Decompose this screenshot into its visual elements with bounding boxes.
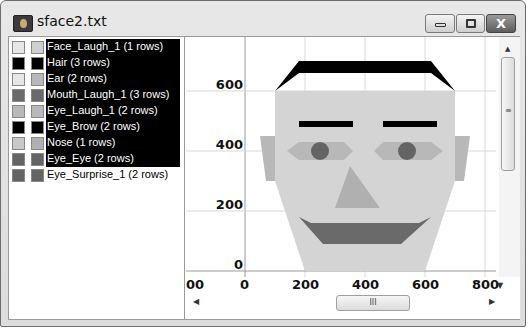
fill-color-swatch[interactable]: [12, 89, 25, 102]
horizontal-scroll-thumb[interactable]: III: [336, 295, 410, 311]
layer-item[interactable]: Ear (2 rows): [9, 71, 185, 87]
layer-label-bg: Face_Laugh_1 (1 rows): [46, 39, 180, 55]
y-tick-label: 600: [216, 77, 243, 92]
layer-label-bg: Eye_Brow (2 rows): [46, 119, 180, 135]
x-tick-label: 600: [412, 277, 439, 292]
fill-color-swatch[interactable]: [12, 73, 25, 86]
fill-color-swatch[interactable]: [12, 105, 25, 118]
close-icon: X: [487, 15, 515, 32]
maximize-icon: [466, 19, 476, 28]
eye-brow-shape: [299, 121, 353, 127]
y-tick-label: 200: [216, 197, 243, 212]
layer-label: Eye_Eye (2 rows): [47, 152, 134, 164]
x-tick-label: 00: [186, 277, 204, 292]
layer-item[interactable]: Eye_Surprise_1 (2 rows): [9, 167, 185, 183]
fill-color-swatch[interactable]: [12, 57, 25, 70]
x-tick-label: 800: [472, 277, 499, 292]
x-tick-label: 0: [240, 277, 249, 292]
layer-label: Nose (1 rows): [47, 136, 115, 148]
layer-label-bg: Eye_Eye (2 rows): [46, 151, 180, 167]
title-bar[interactable]: sface2.txt X: [1, 1, 525, 35]
line-color-swatch[interactable]: [31, 105, 44, 118]
line-color-swatch[interactable]: [31, 121, 44, 134]
layer-item[interactable]: Nose (1 rows): [9, 135, 185, 151]
y-tick-label: 400: [216, 137, 243, 152]
layer-label: Eye_Brow (2 rows): [47, 120, 140, 132]
grip-icon: ≡: [505, 106, 512, 115]
minimize-icon: [435, 23, 446, 27]
layer-item[interactable]: Face_Laugh_1 (1 rows): [9, 39, 185, 55]
layer-list[interactable]: Face_Laugh_1 (1 rows)Hair (3 rows)Ear (2…: [9, 37, 185, 319]
layer-item[interactable]: Eye_Eye (2 rows): [9, 151, 185, 167]
line-color-swatch[interactable]: [31, 57, 44, 70]
x-tick-label: 200: [292, 277, 319, 292]
line-color-swatch[interactable]: [31, 41, 44, 54]
line-color-swatch[interactable]: [31, 73, 44, 86]
fill-color-swatch[interactable]: [12, 137, 25, 150]
layer-label-bg: Mouth_Laugh_1 (3 rows): [46, 87, 180, 103]
vertical-scroll-thumb[interactable]: ≡: [501, 57, 515, 171]
layer-label: Ear (2 rows): [47, 72, 107, 84]
layer-item[interactable]: Eye_Laugh_1 (2 rows): [9, 103, 185, 119]
x-axis-zone: 000200400600800 ▼ ◀ III ▶: [186, 277, 520, 319]
line-color-swatch[interactable]: [31, 89, 44, 102]
fill-color-swatch[interactable]: [12, 41, 25, 54]
fill-color-swatch[interactable]: [12, 169, 25, 182]
fill-color-swatch[interactable]: [12, 121, 25, 134]
layer-label: Eye_Laugh_1 (2 rows): [47, 104, 158, 116]
fill-color-swatch[interactable]: [12, 153, 25, 166]
window-title: sface2.txt: [37, 13, 107, 29]
client-area: Face_Laugh_1 (1 rows)Hair (3 rows)Ear (2…: [8, 36, 520, 320]
line-color-swatch[interactable]: [31, 153, 44, 166]
close-button[interactable]: X: [486, 14, 516, 33]
layer-item[interactable]: Eye_Brow (2 rows): [9, 119, 185, 135]
app-window: sface2.txt X Face_Laugh_1 (1 rows)Hair (…: [0, 0, 526, 327]
scroll-down-icon[interactable]: ▼: [497, 281, 503, 290]
eye-brow-shape: [383, 121, 437, 127]
face-plot: 0200400600: [186, 37, 496, 277]
layer-label: Eye_Surprise_1 (2 rows): [47, 168, 168, 180]
layer-label-bg: Hair (3 rows): [46, 55, 180, 71]
scroll-left-icon[interactable]: ◀: [193, 297, 199, 306]
x-tick-label: 400: [352, 277, 379, 292]
layer-label-bg: Eye_Laugh_1 (2 rows): [46, 103, 180, 119]
layer-label: Hair (3 rows): [47, 56, 110, 68]
scroll-right-icon[interactable]: ▶: [489, 297, 495, 306]
scroll-up-icon[interactable]: ▲: [505, 45, 510, 53]
layer-label-bg: Eye_Surprise_1 (2 rows): [46, 167, 180, 183]
ear-shape: [455, 136, 470, 181]
maximize-button[interactable]: [456, 14, 485, 33]
ear-shape: [260, 136, 275, 181]
eye-eye-shape: [398, 142, 416, 160]
layer-item[interactable]: Hair (3 rows): [9, 55, 185, 71]
layer-item[interactable]: Mouth_Laugh_1 (3 rows): [9, 87, 185, 103]
eye-eye-shape: [311, 142, 329, 160]
app-icon[interactable]: [13, 15, 33, 32]
layer-label: Mouth_Laugh_1 (3 rows): [47, 88, 169, 100]
vertical-scrollbar[interactable]: ▲ ≡: [499, 37, 520, 277]
layer-label: Face_Laugh_1 (1 rows): [47, 40, 163, 52]
horizontal-scrollbar[interactable]: ◀ III ▶: [186, 295, 498, 315]
y-tick-label: 0: [234, 257, 243, 272]
layer-label-bg: Ear (2 rows): [46, 71, 180, 87]
line-color-swatch[interactable]: [31, 169, 44, 182]
plot-area[interactable]: 0200400600: [186, 37, 496, 277]
line-color-swatch[interactable]: [31, 137, 44, 150]
layer-label-bg: Nose (1 rows): [46, 135, 180, 151]
minimize-button[interactable]: [425, 14, 455, 33]
